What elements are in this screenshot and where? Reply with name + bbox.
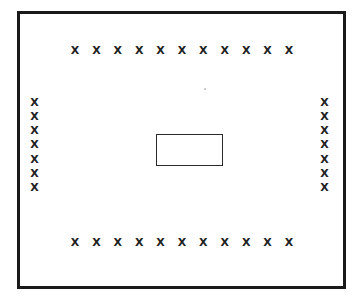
x-marker: X bbox=[30, 97, 40, 108]
marker-group-left-column: X X X X X X X bbox=[29, 97, 40, 193]
x-marker: X bbox=[263, 45, 273, 56]
x-marker: X bbox=[134, 45, 144, 56]
x-marker: X bbox=[30, 182, 40, 193]
x-marker: X bbox=[320, 139, 330, 150]
x-marker: X bbox=[320, 154, 330, 165]
marker-group-bottom-row: X X X X X X X X X X X bbox=[70, 236, 294, 248]
x-marker: X bbox=[30, 125, 40, 136]
x-marker: X bbox=[284, 237, 294, 248]
x-marker: X bbox=[113, 237, 123, 248]
marker-group-right-column: X X X X X X X bbox=[319, 97, 330, 193]
x-marker: X bbox=[30, 111, 40, 122]
x-marker: X bbox=[70, 237, 80, 248]
x-marker: X bbox=[177, 237, 187, 248]
x-marker: X bbox=[91, 45, 101, 56]
x-marker: X bbox=[177, 45, 187, 56]
marker-group-top-row: X X X X X X X X X X X bbox=[70, 44, 294, 56]
x-marker: X bbox=[263, 237, 273, 248]
x-marker: X bbox=[220, 237, 230, 248]
x-marker: X bbox=[284, 45, 294, 56]
x-marker: X bbox=[241, 237, 251, 248]
x-marker: X bbox=[320, 168, 330, 179]
diagram-canvas: X X X X X X X X X X X X X X X X X X X X … bbox=[0, 0, 363, 301]
center-rectangle bbox=[156, 134, 223, 166]
x-marker: X bbox=[70, 45, 80, 56]
x-marker: X bbox=[156, 45, 166, 56]
x-marker: X bbox=[134, 237, 144, 248]
x-marker: X bbox=[320, 111, 330, 122]
x-marker: X bbox=[113, 45, 123, 56]
x-marker: X bbox=[320, 97, 330, 108]
x-marker: X bbox=[30, 139, 40, 150]
x-marker: X bbox=[241, 45, 251, 56]
x-marker: X bbox=[91, 237, 101, 248]
x-marker: X bbox=[220, 45, 230, 56]
x-marker: X bbox=[30, 168, 40, 179]
x-marker: X bbox=[320, 125, 330, 136]
x-marker: X bbox=[30, 154, 40, 165]
scan-speck bbox=[204, 88, 206, 90]
x-marker: X bbox=[320, 182, 330, 193]
x-marker: X bbox=[156, 237, 166, 248]
x-marker: X bbox=[198, 45, 208, 56]
x-marker: X bbox=[198, 237, 208, 248]
